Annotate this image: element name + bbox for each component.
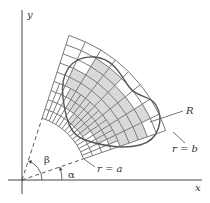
inner-arc-label: r = a [97, 163, 123, 174]
beta-label: β [44, 154, 50, 165]
polar-region-diagram: x y R r = b r = a α β [0, 0, 210, 203]
beta-ray [22, 118, 42, 180]
polar-grid [42, 35, 166, 158]
alpha-label: α [68, 169, 75, 180]
x-axis-label: x [195, 182, 201, 193]
y-axis-label: y [26, 9, 33, 20]
inner-arc-leader-line [84, 159, 95, 167]
region-label: R [185, 105, 194, 116]
outer-arc-label: r = b [172, 143, 198, 154]
outer-arc-leader-line [173, 132, 185, 143]
